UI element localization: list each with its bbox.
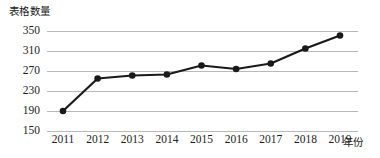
y-tick-label: 310 <box>23 45 40 57</box>
data-point-marker <box>267 60 274 67</box>
gridline <box>47 131 358 132</box>
y-axis-title: 表格数量 <box>9 3 50 18</box>
data-point-marker <box>337 32 344 39</box>
y-tick-label: 350 <box>23 25 40 37</box>
y-tick-label: 270 <box>23 65 40 77</box>
data-point-marker <box>164 71 171 78</box>
data-point-marker <box>302 45 309 52</box>
data-point-marker <box>60 108 67 115</box>
y-tick-label: 150 <box>23 125 40 137</box>
x-tick-label: 2018 <box>294 134 317 146</box>
data-point-marker <box>94 75 101 82</box>
x-axis-tick-labels: 201120122013201420152016201720182019 <box>47 134 358 152</box>
line-series <box>47 31 358 131</box>
x-tick-label: 2015 <box>190 134 213 146</box>
x-tick-label: 2013 <box>121 134 144 146</box>
x-tick-label: 2014 <box>155 134 178 146</box>
data-point-marker <box>129 72 136 79</box>
data-point-marker <box>198 62 205 69</box>
x-tick-label: 2016 <box>225 134 248 146</box>
x-tick-label: 2011 <box>52 134 75 146</box>
y-axis-tick-labels: 350310270230190150 <box>0 31 43 131</box>
y-tick-label: 230 <box>23 85 40 97</box>
chart-container: 表格数量 350310270230190150 2011201220132014… <box>0 0 380 158</box>
series-line <box>63 36 340 112</box>
x-axis-title: 年份 <box>343 134 363 149</box>
plot-area <box>47 31 358 131</box>
data-point-marker <box>233 66 240 73</box>
y-tick-label: 190 <box>23 105 40 117</box>
x-tick-label: 2017 <box>259 134 282 146</box>
x-tick-label: 2012 <box>86 134 109 146</box>
